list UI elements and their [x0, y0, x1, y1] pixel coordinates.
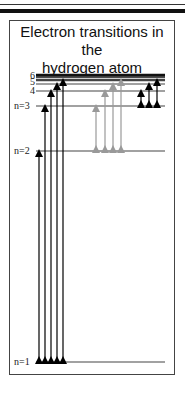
level-label-n1: n=1 [14, 356, 30, 367]
level-label-n3: n=3 [14, 100, 30, 111]
energy-levels [36, 75, 165, 362]
transition-arrows [39, 82, 157, 360]
level-label-n2: n=2 [14, 145, 30, 156]
level-labels: n=1n=2n=3456 [14, 70, 35, 367]
level-label-n6: 6 [30, 70, 35, 81]
energy-level-diagram: n=1n=2n=3456 [0, 0, 185, 398]
